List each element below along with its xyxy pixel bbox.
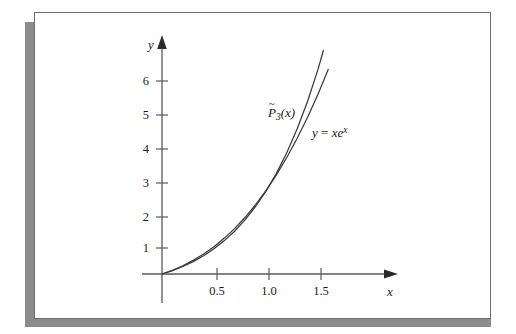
p-with-tilde: P~	[268, 106, 276, 119]
curve-xexp	[162, 50, 324, 274]
y-tick-label-2: 2	[133, 211, 149, 224]
curve-label-xexp: y = xex	[312, 126, 347, 139]
x-axis-arrowhead	[384, 269, 398, 278]
curve-label-p3-tilde: P~3(x)	[268, 106, 295, 122]
figure-root: 1 2 3 4 5 6 0.5 1.0 1.5 y x P~3(x) y = x…	[0, 0, 516, 334]
y-tick-label-4: 4	[133, 143, 149, 156]
y-tick-label-5: 5	[133, 109, 149, 122]
y-axis-arrowhead	[157, 35, 167, 49]
plot-canvas	[35, 13, 490, 318]
tilde-accent: ~	[269, 98, 275, 109]
x-tick-label-1-0: 1.0	[252, 285, 286, 298]
y-tick-label-6: 6	[133, 75, 149, 88]
fn-rhs-base: xe	[332, 125, 344, 140]
fn-equals: =	[318, 125, 332, 140]
x-tick-label-1-5: 1.5	[304, 285, 338, 298]
y-tick-label-1: 1	[133, 242, 149, 255]
p-argument: (x)	[281, 105, 295, 120]
curve-p3-tilde	[162, 69, 328, 274]
y-axis-label: y	[148, 38, 154, 51]
y-tick-label-3: 3	[133, 177, 149, 190]
figure-frame: 1 2 3 4 5 6 0.5 1.0 1.5 y x P~3(x) y = x…	[34, 12, 491, 319]
x-tick-label-0-5: 0.5	[200, 285, 234, 298]
x-axis-label: x	[387, 285, 393, 298]
fn-rhs-exponent: x	[343, 125, 347, 135]
